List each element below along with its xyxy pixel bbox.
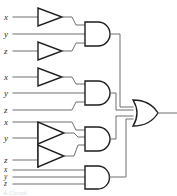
label-z-2: z [3, 105, 8, 115]
or-gate-output-icon [133, 100, 158, 126]
label-x-2: x [3, 72, 8, 82]
wire-and4-to-or [109, 119, 133, 177]
wire-z2 [13, 102, 85, 110]
label-x-3: x [3, 117, 8, 127]
label-z-4: z [3, 179, 7, 188]
input-group-2 [13, 68, 133, 110]
input-group-4 [13, 119, 133, 189]
figure-caption: A Circuit [3, 189, 27, 196]
and-gate-4-icon [85, 166, 109, 189]
wire-z1-out [62, 43, 85, 51]
label-z-1: z [3, 46, 8, 56]
or-gate-group [133, 100, 177, 126]
inverter-y3-icon [38, 122, 64, 144]
inverter-z3-icon [38, 145, 64, 167]
label-y-2: y [3, 88, 8, 98]
wire-y3-out [64, 133, 85, 137]
input-group-3 [13, 116, 133, 168]
wire-x2-out [62, 77, 85, 84]
circuit-schematic: x y z x y z x y z x y z [0, 0, 177, 196]
label-y-1: y [3, 29, 8, 39]
and-gate-3-icon [85, 127, 110, 151]
and-gate-1-icon [85, 22, 110, 46]
input-group-1 [13, 8, 133, 107]
wire-z3-out [64, 145, 85, 156]
wire-and1-to-or [110, 34, 133, 107]
logic-circuit-figure: x y z x y z x y z x y z A Circuit [0, 0, 177, 196]
label-z-3: z [3, 155, 8, 165]
and-gate-2-icon [85, 81, 110, 105]
inverter-z1-icon [38, 42, 62, 60]
wire-x1-out [62, 17, 85, 25]
inverter-x2-icon [38, 68, 62, 86]
input-labels: x y z x y z x y z x y z [3, 12, 8, 188]
label-y-3: y [3, 133, 8, 143]
inverter-x1-icon [38, 8, 62, 26]
label-x-1: x [3, 12, 8, 22]
